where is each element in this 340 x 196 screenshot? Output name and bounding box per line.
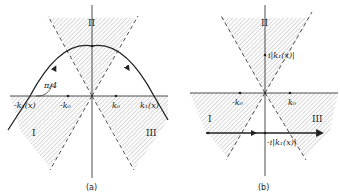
caption-b: (b) — [258, 183, 269, 192]
panel-a: π/4 -k₁(x) -k₀ k₀ k₁(x) II I III (a) — [8, 5, 168, 192]
label-pos-k0: k₀ — [112, 101, 121, 110]
region-label-I: I — [208, 114, 212, 124]
label-neg-k1: -k₁(x) — [14, 101, 36, 110]
region-label-III: III — [146, 128, 157, 138]
contour-diagram: π/4 -k₁(x) -k₀ k₀ k₁(x) II I III (a) i|k… — [0, 0, 340, 196]
region-label-III: III — [312, 114, 323, 124]
panel-b: i|k₁(x)| -i|k₁(x)| -k₀ k₀ II I III (b) — [190, 5, 338, 192]
angle-label: π/4 — [43, 81, 57, 90]
region-II-shade — [50, 18, 135, 96]
label-pos-k0: k₀ — [288, 98, 297, 107]
caption-a: (a) — [86, 183, 97, 192]
region-III-shade — [265, 93, 338, 158]
region-I-shade — [190, 93, 265, 158]
label-neg-k0: -k₀ — [232, 98, 244, 107]
region-label-II: II — [261, 18, 269, 28]
region-label-I: I — [32, 128, 36, 138]
label-upper: i|k₁(x)| — [268, 51, 295, 60]
label-lower: -i|k₁(x)| — [267, 138, 296, 147]
label-pos-k1: k₁(x) — [140, 101, 159, 110]
label-neg-k0: -k₀ — [60, 101, 72, 110]
region-label-II: II — [88, 18, 96, 28]
